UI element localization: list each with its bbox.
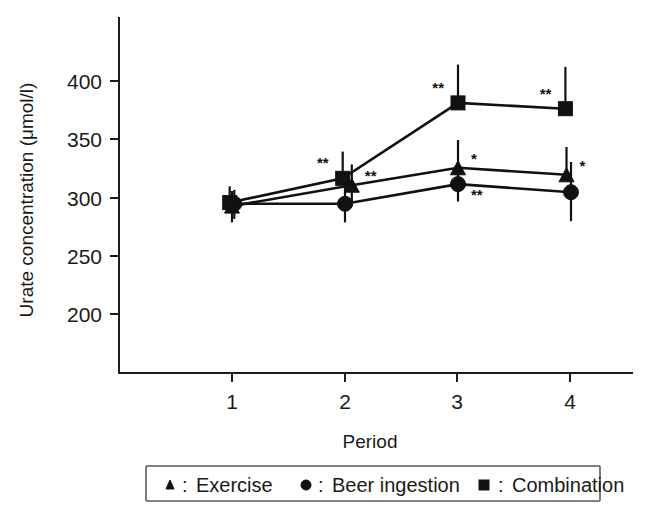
y-tick-label: 200 [67,303,102,326]
x-tick-label: 3 [451,390,463,413]
legend-separator: : [182,474,188,496]
urate-concentration-line-chart: 400 350 300 250 200 1 [0,0,645,516]
y-tick-400: 400 [67,70,119,93]
y-tick-250: 250 [67,245,119,268]
legend-item-label: Beer ingestion [332,474,460,496]
y-tick-300: 300 [67,187,119,210]
y-tick-200: 200 [67,303,119,326]
legend-item-exercise[interactable]: : Exercise [166,474,273,496]
y-axis-title: Urate concentration (μmol/l) [16,83,37,318]
series-line [232,168,567,206]
square-marker [558,102,572,116]
circle-marker [451,177,466,192]
data-series-layer [223,65,579,223]
significance-marker: ** [540,85,552,102]
y-tick-label: 400 [67,70,102,93]
square-marker-icon [479,480,489,490]
x-tick-label: 1 [226,390,238,413]
legend-separator: : [498,474,504,496]
y-axis-ticks: 400 350 300 250 200 [67,70,119,326]
x-tick-2: 2 [339,373,351,413]
y-tick-350: 350 [67,128,119,151]
legend-separator: : [318,474,324,496]
significance-marker: ** [317,154,329,171]
significance-marker: * [580,157,586,174]
axes-group [119,18,632,373]
y-tick-label: 300 [67,187,102,210]
legend-item-combination[interactable]: : Combination [479,474,624,496]
circle-marker [564,185,579,200]
square-marker [223,196,237,210]
x-axis-title: Period [343,431,398,452]
square-marker [336,171,350,185]
square-marker [451,96,465,110]
series-exercise [225,140,575,222]
significance-marker: * [471,150,477,167]
x-tick-4: 4 [564,373,576,413]
significance-marker: ** [471,186,483,203]
series-line [234,184,571,204]
x-axis-ticks: 1 2 3 4 [226,373,576,413]
x-tick-1: 1 [226,373,238,413]
significance-marker: ** [432,79,444,96]
y-tick-label: 250 [67,245,102,268]
figure-container: 400 350 300 250 200 1 [0,0,645,516]
x-tick-label: 2 [339,390,351,413]
circle-marker-icon [301,480,311,490]
significance-marker: ** [365,167,377,184]
legend: : Exercise : Beer ingestion : Combinatio… [146,466,624,501]
circle-marker [338,196,353,211]
x-tick-label: 4 [564,390,576,413]
y-tick-label: 350 [67,128,102,151]
x-tick-3: 3 [451,373,463,413]
legend-item-label: Combination [512,474,624,496]
legend-item-label: Exercise [196,474,273,496]
